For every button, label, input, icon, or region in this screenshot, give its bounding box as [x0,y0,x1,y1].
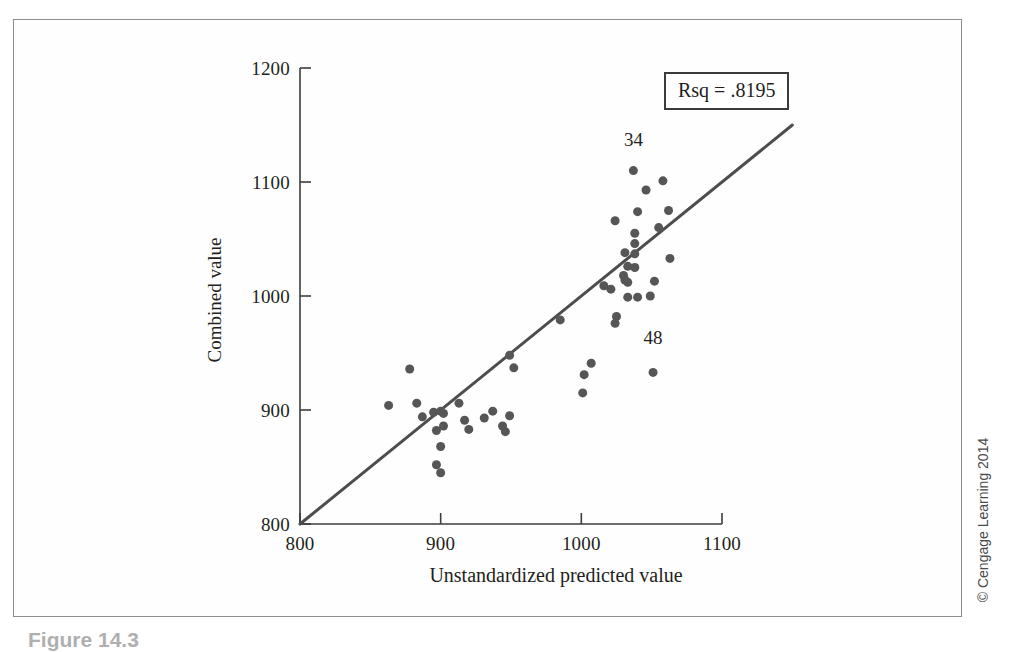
x-tick-label: 800 [285,534,314,553]
x-tick-label: 1000 [562,534,601,553]
y-axis-title: Combined value [204,237,226,362]
figure-border [13,19,962,617]
figure-caption: Figure 14.3 [28,628,139,652]
r-squared-annotation-box: Rsq = .8195 [664,72,789,110]
y-tick-label: 900 [228,401,290,420]
y-tick-label: 800 [228,515,290,534]
copyright-notice: © Cengage Learning 2014 [975,438,991,602]
outlier-case-label: 48 [644,328,663,347]
x-tick-label: 1100 [703,534,741,553]
x-tick-label: 900 [426,534,455,553]
outlier-case-label: 34 [624,130,643,149]
x-axis-title: Unstandardized predicted value [429,564,682,587]
y-tick-label: 1100 [228,173,290,192]
y-tick-label: 1000 [228,287,290,306]
y-tick-label: 1200 [228,59,290,78]
